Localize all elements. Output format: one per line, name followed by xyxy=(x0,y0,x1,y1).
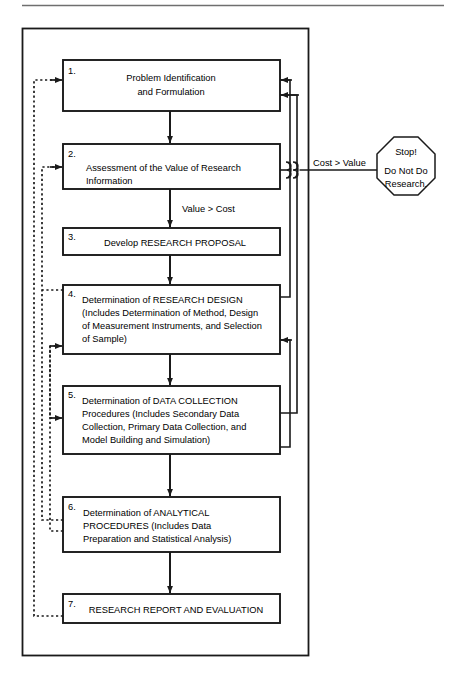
step-7-line-1: RESEARCH REPORT AND EVALUATION xyxy=(89,605,263,615)
flowchart-svg: Stop! Do Not Do Research. xyxy=(0,0,466,680)
step-2-line-1: Assessment of the Value of Research xyxy=(86,163,241,173)
feedback-solid-trunk-b xyxy=(280,95,297,413)
step-1-line-1: Problem Identification xyxy=(126,73,215,83)
step-4-research-design[interactable]: 4. Determination of RESEARCH DESIGN (Inc… xyxy=(63,285,280,354)
step-5-line-3: Collection, Primary Data Collection, and xyxy=(82,422,246,432)
step-4-line-4: of Sample) xyxy=(82,334,127,344)
step-2-number: 2. xyxy=(68,149,76,159)
stop-sign-line-2: Do Not Do xyxy=(384,166,427,176)
step-6-analytical-procedures[interactable]: 6. Determination of ANALYTICAL PROCEDURE… xyxy=(63,497,280,552)
step-2-line-2: Information xyxy=(86,176,133,186)
edge-label-cost-greater-value: Cost > Value xyxy=(313,158,366,168)
step-7-research-report[interactable]: 7. RESEARCH REPORT AND EVALUATION xyxy=(63,594,280,623)
step-4-number: 4. xyxy=(68,289,76,299)
step-6-line-1: Determination of ANALYTICAL xyxy=(83,508,209,518)
step-2-assessment-of-value[interactable]: 2. Assessment of the Value of Research I… xyxy=(63,144,280,189)
step-5-line-2: Procedures (Includes Secondary Data xyxy=(82,409,240,419)
step-1-problem-identification[interactable]: 1. Problem Identification and Formulatio… xyxy=(63,60,280,111)
step-3-line-1: Develop RESEARCH PROPOSAL xyxy=(104,238,246,248)
step-6-line-3: Preparation and Statistical Analysis) xyxy=(83,534,231,544)
step-6-line-2: PROCEDURES (Includes Data xyxy=(83,521,212,531)
step-4-line-3: of Measurement Instruments, and Selectio… xyxy=(82,321,262,331)
edge-label-value-greater-cost: Value > Cost xyxy=(182,204,235,214)
dotted-trunk-box5 xyxy=(50,346,56,418)
feedback-solid-trunk-a xyxy=(280,80,290,297)
dotted-trunk-outer xyxy=(34,80,63,616)
step-1-line-2: and Formulation xyxy=(137,87,204,97)
step-3-develop-research-proposal[interactable]: 3. Develop RESEARCH PROPOSAL xyxy=(63,228,280,255)
step-5-number: 5. xyxy=(68,390,76,400)
step-4-line-2: (Includes Determination of Method, Desig… xyxy=(82,308,258,318)
stop-sign-line-3: Research. xyxy=(385,179,427,189)
step-5-line-1: Determination of DATA COLLECTION xyxy=(82,396,238,406)
stop-sign-line-1: Stop! xyxy=(395,147,417,157)
step-3-number: 3. xyxy=(68,232,76,242)
dotted-trunk-inner xyxy=(50,346,63,531)
feedback-solid-trunk-c xyxy=(280,340,290,447)
dotted-trunk-mid xyxy=(42,167,63,520)
step-1-number: 1. xyxy=(68,66,76,76)
step-6-number: 6. xyxy=(68,502,76,512)
figure-canvas: Stop! Do Not Do Research. xyxy=(0,0,466,680)
step-5-data-collection[interactable]: 5. Determination of DATA COLLECTION Proc… xyxy=(63,386,280,454)
step-7-number: 7. xyxy=(68,599,76,609)
step-4-line-1: Determination of RESEARCH DESIGN xyxy=(82,295,243,305)
step-5-line-4: Model Building and Simulation) xyxy=(82,435,210,445)
